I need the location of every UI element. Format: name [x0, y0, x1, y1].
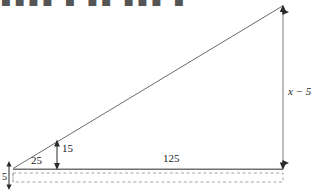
hypotenuse-line — [13, 6, 283, 169]
label-base-right-segment: 125 — [163, 153, 180, 164]
label-left-offset: 5 — [2, 172, 7, 182]
label-inner-vertical: 15 — [62, 143, 73, 154]
lower-dashed-rect — [13, 173, 283, 182]
left-offset-arrow-bottom — [6, 185, 11, 191]
label-base-left-segment: 25 — [31, 155, 42, 166]
diagram-svg — [0, 0, 313, 193]
diagram-canvas: ████ █ ██ ███ █ 25 15 — [0, 0, 313, 193]
label-right-vertical: x − 5 — [288, 86, 311, 97]
left-offset-arrow-top — [6, 161, 11, 167]
right-vertical-arrow-top — [280, 5, 286, 13]
